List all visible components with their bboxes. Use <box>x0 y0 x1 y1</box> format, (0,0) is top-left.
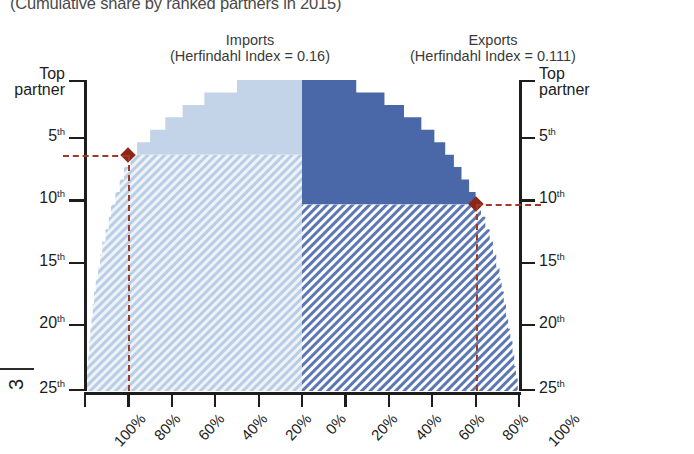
x-tick-2 <box>171 392 173 407</box>
y-label-right-0: Toppartner <box>539 66 590 97</box>
exports-caption: Exports (Herfindahl Index = 0.111) <box>378 33 608 64</box>
x-label-1: 80% <box>151 410 184 444</box>
page-title: (Cumulative share by ranked partners in … <box>10 0 530 13</box>
y-label-left-0: Toppartner <box>14 66 65 97</box>
y-tick-right-1 <box>520 137 535 139</box>
y-tick-left-0 <box>69 80 84 82</box>
y-axis-right <box>519 80 522 391</box>
y-tick-left-1 <box>69 137 84 139</box>
y-tick-right-5 <box>520 389 535 391</box>
page-number: 3 <box>5 379 28 390</box>
y-label-right-3: 15th <box>539 251 565 270</box>
x-tick-5 <box>301 392 303 407</box>
y-label-left-4: 20th <box>39 313 65 332</box>
y-tick-left-3 <box>69 262 84 264</box>
x-label-5: 0% <box>322 410 349 437</box>
x-tick-8 <box>431 392 433 407</box>
annotation-leader-h-exports <box>476 204 541 206</box>
x-label-8: 60% <box>455 410 488 444</box>
y-label-left-5: 25th <box>39 378 65 397</box>
x-tick-4 <box>258 392 260 407</box>
y-tick-left-2 <box>69 199 84 201</box>
x-label-6: 20% <box>368 410 401 444</box>
y-tick-left-4 <box>69 324 84 326</box>
x-label-0: 100% <box>110 410 149 450</box>
y-axis-left <box>84 80 87 391</box>
imports-label: Imports <box>150 33 350 49</box>
x-label-9: 80% <box>498 410 531 444</box>
exports-label: Exports <box>378 33 608 49</box>
x-label-4: 20% <box>281 410 314 444</box>
x-label-3: 40% <box>238 410 271 444</box>
x-tick-1 <box>127 392 129 407</box>
x-tick-9 <box>475 392 477 407</box>
y-label-right-2: 10th <box>539 188 565 207</box>
x-tick-7 <box>388 392 390 407</box>
x-tick-10 <box>518 392 520 407</box>
y-tick-right-2 <box>520 199 535 201</box>
x-tick-3 <box>214 392 216 407</box>
annotation-leader-v-imports <box>128 155 130 391</box>
series-exports-area <box>85 80 519 391</box>
y-label-right-5: 25th <box>539 378 565 397</box>
chart-plot-area: Toppartner5th10th15th20th25th Toppartner… <box>85 80 519 391</box>
annotation-leader-v-exports <box>476 204 478 391</box>
x-tick-6 <box>344 392 346 407</box>
y-label-left-1: 5th <box>48 126 65 145</box>
x-label-2: 60% <box>194 410 227 444</box>
x-label-10: 100% <box>544 410 583 450</box>
x-label-7: 40% <box>411 410 444 444</box>
y-tick-right-4 <box>520 324 535 326</box>
imports-herfindahl: (Herfindahl Index = 0.16) <box>150 49 350 65</box>
y-tick-right-0 <box>520 80 535 82</box>
y-label-left-2: 10th <box>39 188 65 207</box>
y-tick-left-5 <box>69 389 84 391</box>
y-label-right-1: 5th <box>539 126 556 145</box>
exports-curve <box>85 80 519 391</box>
x-tick-0 <box>84 392 86 407</box>
imports-caption: Imports (Herfindahl Index = 0.16) <box>150 33 350 64</box>
exports-herfindahl: (Herfindahl Index = 0.111) <box>378 49 608 65</box>
y-tick-right-3 <box>520 262 535 264</box>
y-label-left-3: 15th <box>39 251 65 270</box>
y-label-right-4: 20th <box>539 313 565 332</box>
annotation-leader-h-imports <box>63 155 128 157</box>
